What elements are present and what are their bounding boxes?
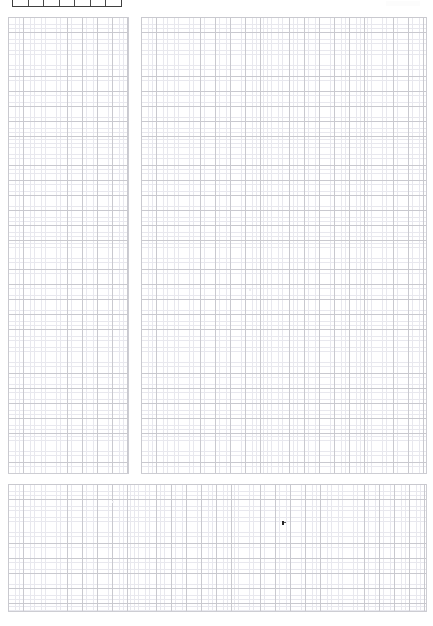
faint-mark-bottom-panel	[112, 501, 114, 503]
grid-panel-right[interactable]	[141, 17, 427, 474]
page-root	[0, 0, 433, 626]
table-cell[interactable]	[106, 0, 121, 6]
grid-panel-left[interactable]	[8, 17, 129, 474]
text-cursor-marker-tail	[284, 522, 286, 523]
top-right-smudge	[386, 1, 420, 6]
table-cell[interactable]	[60, 0, 76, 6]
grid-panel-bottom[interactable]	[8, 484, 427, 612]
table-cell[interactable]	[29, 0, 45, 6]
clipped-header-table[interactable]	[12, 0, 122, 7]
table-cell[interactable]	[75, 0, 91, 6]
table-cell[interactable]	[13, 0, 29, 6]
table-cell[interactable]	[44, 0, 60, 6]
faint-mark-right-panel	[249, 289, 251, 291]
table-cell[interactable]	[91, 0, 107, 6]
